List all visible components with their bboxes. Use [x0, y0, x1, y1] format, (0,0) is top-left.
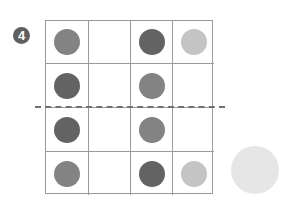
dark-counter-circle — [54, 117, 80, 143]
grid-cell — [89, 64, 131, 108]
medium-counter-circle — [139, 73, 165, 99]
grid-cell — [89, 108, 131, 152]
medium-counter-circle — [54, 29, 80, 55]
grid-cell — [173, 64, 214, 108]
light-counter-circle — [181, 29, 207, 55]
dark-counter-circle — [54, 73, 80, 99]
dark-counter-circle — [139, 29, 165, 55]
grid-cell — [173, 152, 214, 195]
grid-cell — [131, 108, 173, 152]
grid-cell — [131, 64, 173, 108]
grid-cell — [46, 64, 89, 108]
medium-counter-circle — [54, 161, 80, 187]
grid-cell — [89, 152, 131, 195]
medium-counter-circle — [139, 117, 165, 143]
grid-cell — [173, 21, 214, 64]
grid-cell — [131, 21, 173, 64]
grid-cell — [89, 21, 131, 64]
grid-cell — [131, 152, 173, 195]
problem-number-badge: 4 — [13, 27, 30, 44]
dashed-divider-line — [35, 106, 225, 108]
grid-cell — [173, 108, 214, 152]
grid-cell — [46, 21, 89, 64]
outside-counter-circle — [231, 146, 279, 194]
grid-cell — [46, 152, 89, 195]
grid-cell — [46, 108, 89, 152]
light-counter-circle — [181, 161, 207, 187]
dark-counter-circle — [139, 161, 165, 187]
